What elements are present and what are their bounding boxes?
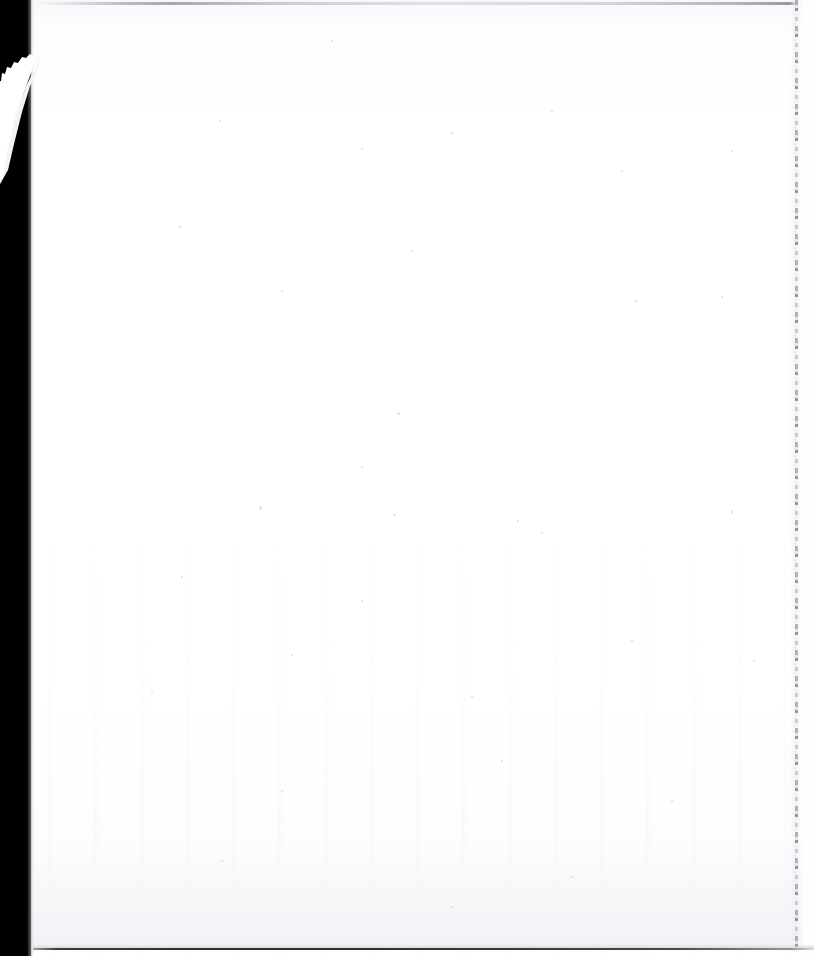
scanned-page-canvas xyxy=(0,0,814,956)
top-edge-rule xyxy=(34,2,796,5)
outer-right-margin xyxy=(802,0,814,956)
right-margin-crease xyxy=(795,0,798,952)
page-sheet xyxy=(30,0,814,956)
scanner-bed-band xyxy=(0,0,31,956)
bottom-edge-rule xyxy=(33,948,814,950)
